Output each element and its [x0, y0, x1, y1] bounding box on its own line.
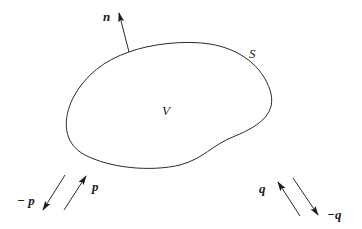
q-label: q: [259, 182, 266, 195]
normal-n-arrow: [119, 13, 129, 52]
diagram-canvas: n S V − p p q −q: [0, 0, 362, 229]
p-arrow: [64, 176, 86, 210]
neg-q-label: −q: [327, 208, 341, 221]
p-label: p: [92, 180, 99, 193]
diagram-svg: [0, 0, 362, 229]
neg-q-arrow: [293, 178, 318, 215]
q-arrow: [278, 182, 300, 216]
normal-n-label: n: [103, 10, 110, 23]
neg-p-label: − p: [17, 194, 35, 207]
neg-p-arrow: [43, 175, 65, 210]
surface-S-label: S: [249, 47, 256, 60]
volume-V-label: V: [162, 104, 170, 117]
